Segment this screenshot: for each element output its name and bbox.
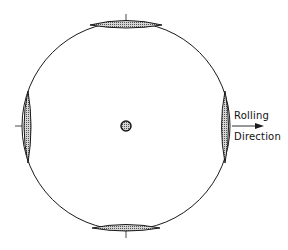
pole-center xyxy=(121,121,131,131)
arrowhead-icon xyxy=(255,123,264,129)
pole-region-top xyxy=(90,21,162,29)
pole-figure-diagram xyxy=(0,0,288,250)
pole-region-bottom xyxy=(92,225,160,232)
direction-label: Direction xyxy=(234,131,281,142)
rolling-label: Rolling xyxy=(234,110,269,121)
